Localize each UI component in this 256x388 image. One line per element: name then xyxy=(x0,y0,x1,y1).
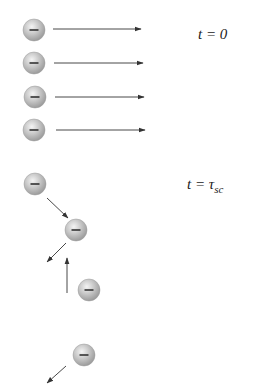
electron-icon xyxy=(24,86,46,108)
velocity-arrow xyxy=(47,243,66,262)
electron-icon xyxy=(78,279,100,301)
panel-t-zero xyxy=(23,19,145,141)
time-label-t-zero: t = 0 xyxy=(198,26,227,43)
time-label-text: t = 0 xyxy=(198,26,227,42)
velocity-arrow xyxy=(47,366,66,383)
electron-icon xyxy=(24,173,46,195)
time-label-text: t = τ xyxy=(187,176,214,192)
panel-t-scattering xyxy=(24,173,100,383)
time-label-t-tau-sc: t = τsc xyxy=(187,176,223,195)
electron-icon xyxy=(23,119,45,141)
electron-icon xyxy=(23,52,45,74)
time-label-subscript: sc xyxy=(214,183,223,195)
electron-icon xyxy=(23,19,45,41)
electron-icon xyxy=(65,219,87,241)
velocity-arrow xyxy=(47,198,68,218)
electron-icon xyxy=(73,344,95,366)
